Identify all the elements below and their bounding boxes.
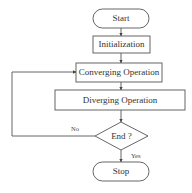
node-start-label: Start: [113, 13, 130, 23]
edge-label-no: No: [71, 125, 79, 132]
node-diverging-label: Diverging Operation: [83, 95, 158, 105]
node-converging-operation: Converging Operation: [76, 63, 162, 82]
flowchart: Start Initialization Converging Operatio…: [0, 0, 192, 193]
node-diverging-operation: Diverging Operation: [55, 90, 185, 110]
node-stop-label: Stop: [113, 166, 130, 176]
node-initialization: Initialization: [93, 36, 150, 53]
node-stop: Stop: [93, 162, 149, 181]
node-initialization-label: Initialization: [99, 39, 145, 49]
node-end-decision: End ?: [95, 122, 148, 150]
node-converging-label: Converging Operation: [79, 67, 160, 77]
edge-label-yes: Yes: [131, 152, 141, 159]
node-start: Start: [93, 9, 149, 28]
node-end-label: End ?: [111, 131, 132, 141]
